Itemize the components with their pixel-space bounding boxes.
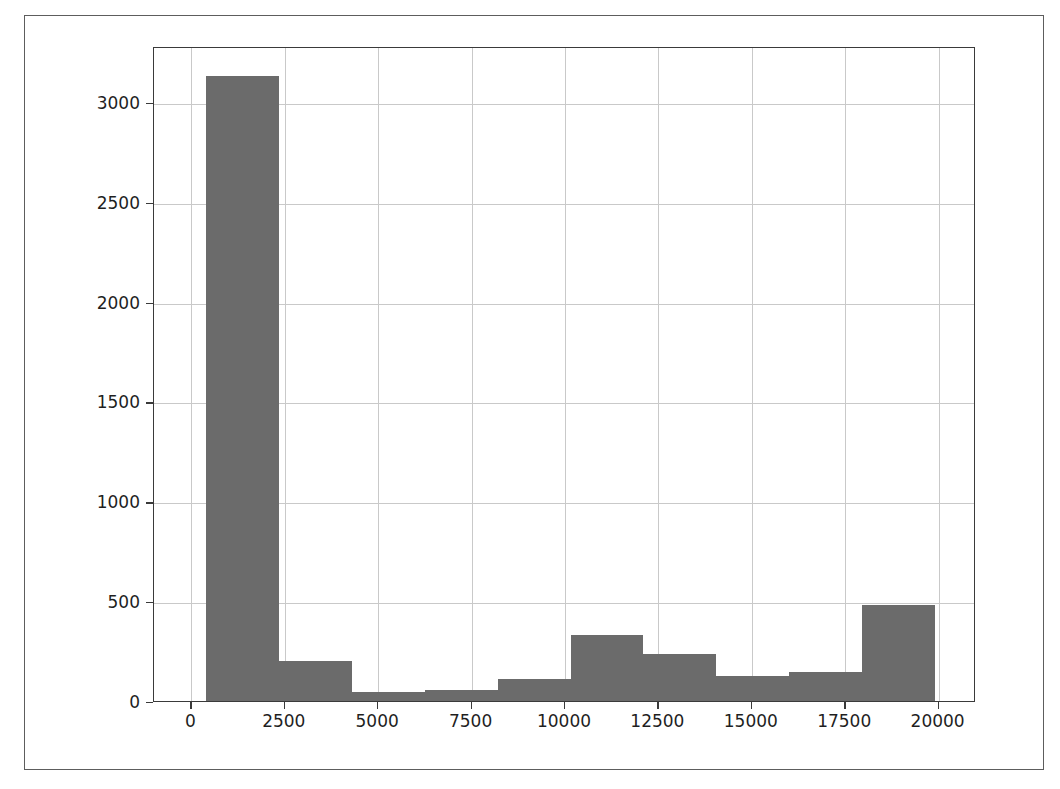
y-tick-mark [146, 103, 153, 104]
y-tick-label: 500 [60, 592, 140, 612]
histogram-bar [425, 690, 498, 701]
x-tick-mark [377, 702, 378, 709]
plot-area [153, 47, 975, 702]
x-tick-label: 17500 [817, 711, 871, 731]
x-tick-label: 2500 [262, 711, 305, 731]
x-tick-label: 10000 [537, 711, 591, 731]
x-tick-label: 7500 [449, 711, 492, 731]
x-tick-mark [844, 702, 845, 709]
histogram-bar [862, 605, 935, 701]
screenshot-root: 02500500075001000012500150001750020000 0… [0, 0, 1060, 789]
y-tick-mark [146, 502, 153, 503]
histogram-bar [789, 672, 862, 701]
x-tick-label: 20000 [911, 711, 965, 731]
x-tick-mark [751, 702, 752, 709]
y-tick-mark [146, 402, 153, 403]
y-tick-label: 1000 [60, 492, 140, 512]
y-tick-label: 2500 [60, 193, 140, 213]
x-tick-label: 15000 [724, 711, 778, 731]
y-tick-label: 0 [60, 692, 140, 712]
x-tick-mark [284, 702, 285, 709]
y-tick-mark [146, 702, 153, 703]
histogram-bar [498, 679, 571, 701]
x-tick-mark [471, 702, 472, 709]
y-tick-mark [146, 602, 153, 603]
x-tick-mark [938, 702, 939, 709]
y-tick-label: 1500 [60, 392, 140, 412]
histogram-bar [206, 76, 279, 701]
y-tick-label: 3000 [60, 93, 140, 113]
histogram-bar [571, 635, 644, 701]
histogram-figure: 02500500075001000012500150001750020000 0… [0, 0, 1060, 789]
x-tick-label: 0 [185, 711, 196, 731]
x-tick-label: 12500 [630, 711, 684, 731]
x-tick-mark [657, 702, 658, 709]
y-tick-mark [146, 203, 153, 204]
y-tick-label: 2000 [60, 293, 140, 313]
y-tick-mark [146, 303, 153, 304]
histogram-bar [643, 654, 716, 701]
x-tick-mark [190, 702, 191, 709]
x-tick-label: 5000 [356, 711, 399, 731]
histogram-bar [279, 661, 352, 701]
histogram-bar [716, 676, 789, 701]
x-tick-mark [564, 702, 565, 709]
histogram-bar [352, 692, 425, 701]
